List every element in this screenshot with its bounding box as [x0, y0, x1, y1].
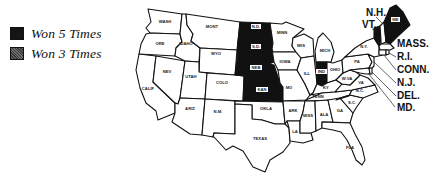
- us-map: WASH ORE CALIF NEV IDAHO MONT WYO UTAH A…: [0, 0, 434, 187]
- label-oh: OHIO: [330, 67, 341, 72]
- label-or: ORE: [155, 41, 164, 46]
- callout-nh: N.H.: [366, 7, 386, 18]
- label-ut: UTAH: [185, 74, 196, 79]
- state-arizona: [172, 98, 205, 135]
- label-in: IND: [318, 69, 325, 74]
- label-mi: MICH: [320, 48, 331, 53]
- label-wy: WYO: [211, 51, 222, 56]
- label-pa: PA: [354, 59, 360, 64]
- label-mn: MINN: [277, 30, 288, 35]
- label-ky: KY: [323, 85, 329, 90]
- label-nm: N.M.: [214, 109, 223, 114]
- label-tx: TEXAS: [253, 136, 267, 141]
- label-mo: MO: [286, 85, 293, 90]
- callout-conn: CONN.: [397, 64, 429, 75]
- callout-ri: R.I.: [397, 51, 413, 62]
- state-new-mexico: [202, 99, 235, 137]
- label-ny: N.Y.: [360, 44, 368, 49]
- label-mt: MONT: [206, 24, 219, 29]
- label-ok: OKLA: [260, 106, 272, 111]
- label-il: ILL: [304, 71, 311, 76]
- state-florida: [322, 122, 365, 165]
- state-delaware: [369, 68, 372, 74]
- label-wa: WASH: [159, 19, 172, 24]
- callout-md: MD.: [397, 102, 416, 113]
- label-al: ALA: [320, 112, 329, 117]
- label-ms: MISS: [303, 113, 313, 118]
- callout-del: DEL.: [397, 90, 420, 101]
- label-me: ME: [392, 17, 398, 22]
- callout-mass: MASS.: [397, 38, 429, 49]
- state-colorado: [205, 73, 244, 101]
- callout-vt: VT.: [362, 19, 377, 30]
- label-wi: WIS: [297, 43, 305, 48]
- label-co: COLO: [216, 80, 229, 85]
- label-nv: NEV: [163, 69, 172, 74]
- label-ne: NEB: [252, 65, 261, 70]
- label-id: IDAHO: [179, 41, 193, 46]
- label-fl: FLA: [346, 145, 354, 150]
- state-kansas: [243, 83, 283, 102]
- label-nd: N.D.: [252, 24, 260, 29]
- label-sd: S.D.: [252, 44, 260, 49]
- label-wv: W.VA: [342, 76, 352, 81]
- label-la: LA: [292, 129, 298, 134]
- label-nc: N.C.: [356, 88, 364, 93]
- label-ca: CALIF: [142, 86, 155, 91]
- label-ks: KAN: [257, 87, 266, 92]
- label-sc: S.C.: [348, 100, 356, 105]
- state-massachusetts: [379, 44, 394, 50]
- label-ia: IOWA: [279, 59, 290, 64]
- label-tn: TENN: [312, 94, 323, 99]
- label-az: ARIZ: [185, 106, 195, 111]
- state-rhode-island: [386, 50, 389, 55]
- label-va: VA: [358, 80, 364, 85]
- state-connecticut: [379, 50, 386, 55]
- label-ga: GA: [337, 108, 343, 113]
- label-ar: ARK: [288, 108, 297, 113]
- callout-nj: N.J.: [397, 77, 416, 88]
